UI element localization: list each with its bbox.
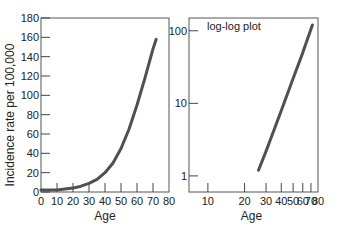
x-tick-label: 50 [115, 195, 127, 207]
left-plot-frame [41, 18, 169, 192]
right-x-axis-title: Age [241, 209, 263, 223]
y-tick-label: 60 [27, 128, 39, 140]
x-tick-label: 0 [38, 195, 44, 207]
y-tick-label: 1 [181, 170, 187, 182]
x-tick-label: 40 [275, 195, 287, 207]
right-plot-frame [189, 18, 318, 192]
incidence-curve [41, 39, 156, 190]
y-tick-label: 80 [27, 109, 39, 121]
x-tick-label: 30 [260, 195, 272, 207]
y-tick-label: 160 [21, 31, 39, 43]
x-tick-label: 20 [238, 195, 250, 207]
x-tick-label: 80 [163, 195, 175, 207]
x-tick-label: 30 [83, 195, 95, 207]
x-tick-label: 10 [202, 195, 214, 207]
y-tick-label: 100 [169, 25, 187, 37]
y-tick-label: 20 [27, 167, 39, 179]
left-y-axis-title: Incidence rate per 100,000 [3, 43, 17, 186]
x-tick-label: 60 [131, 195, 143, 207]
x-tick-label: 70 [147, 195, 159, 207]
loglog-incidence-line [259, 25, 313, 170]
x-tick-label: 40 [99, 195, 111, 207]
chart-figure: 0204060801001201401601800102030405060708… [0, 0, 338, 229]
y-tick-label: 140 [21, 51, 39, 63]
x-tick-label: 20 [67, 195, 79, 207]
x-tick-label: 10 [51, 195, 63, 207]
left-x-axis-title: Age [94, 209, 116, 223]
x-tick-label: 80 [312, 195, 324, 207]
y-tick-label: 10 [175, 97, 187, 109]
y-tick-label: 180 [21, 12, 39, 24]
y-tick-label: 40 [27, 147, 39, 159]
log-log-plot-label: log-log plot [207, 20, 261, 32]
y-tick-label: 100 [21, 89, 39, 101]
y-tick-label: 120 [21, 70, 39, 82]
